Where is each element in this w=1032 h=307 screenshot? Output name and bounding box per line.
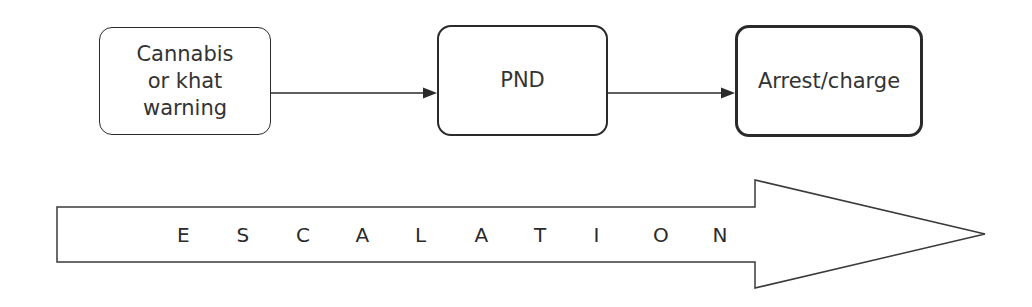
- connector-pnd-to-arrest: [608, 88, 735, 99]
- arrowhead-icon: [423, 88, 437, 99]
- escalation-letter: I: [594, 223, 654, 247]
- escalation-letter: A: [356, 223, 416, 247]
- escalation-letter: C: [296, 223, 356, 247]
- node-arrest-charge: Arrest/charge: [735, 25, 923, 137]
- node-label: Arrest/charge: [758, 68, 900, 95]
- escalation-letter: E: [177, 223, 237, 247]
- escalation-letter: T: [534, 223, 594, 247]
- connector-warning-to-pnd: [271, 88, 437, 99]
- escalation-letter: L: [415, 223, 475, 247]
- node-label: Cannabis or khat warning: [136, 41, 233, 122]
- escalation-letter: N: [713, 223, 773, 247]
- node-label: PND: [500, 67, 545, 94]
- node-cannabis-khat-warning: Cannabis or khat warning: [99, 27, 271, 135]
- arrowhead-icon: [721, 88, 735, 99]
- escalation-label: E S C A L A T I O N: [57, 207, 755, 262]
- escalation-letter: S: [237, 223, 297, 247]
- escalation-letter: A: [475, 223, 535, 247]
- node-pnd: PND: [437, 25, 608, 136]
- escalation-letters: E S C A L A T I O N: [177, 223, 772, 247]
- escalation-letter: O: [653, 223, 713, 247]
